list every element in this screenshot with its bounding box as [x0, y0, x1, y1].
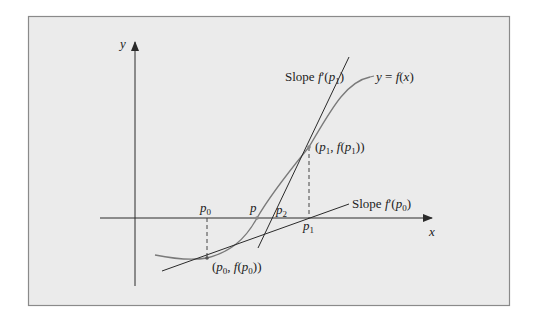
x-axis-label: x: [428, 224, 435, 239]
figure-frame: [29, 17, 510, 306]
p-axis-label: p: [249, 200, 257, 215]
point-p1-on-curve: [307, 145, 311, 149]
p0-curve-label: (p0, f(p0)): [212, 259, 261, 276]
p1-curve-label: (p1, f(p1)): [315, 139, 364, 156]
slope-p0-label: Slope f′(p0): [352, 196, 411, 213]
curve-label: y = f(x): [374, 69, 414, 84]
point-p0-on-curve: [205, 256, 209, 260]
slope-p1-label: Slope f′(p1): [285, 69, 344, 86]
point-p-root: [255, 216, 259, 220]
y-axis-label: y: [118, 36, 126, 51]
newton-method-diagram: y x y = f(x) Slope f′(p0) Slope f′(p1) p…: [0, 0, 534, 322]
